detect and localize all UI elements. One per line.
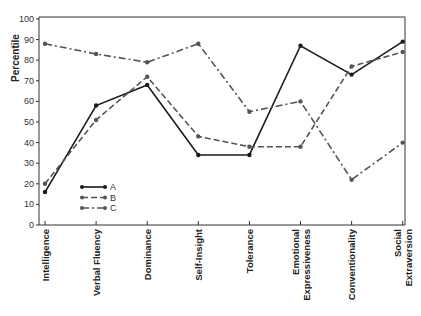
series-line — [45, 52, 403, 184]
plot-border — [39, 17, 405, 225]
x-tick-label: EmotionalExpressiveness — [290, 229, 312, 301]
x-tick-label: Tolerance — [244, 229, 255, 273]
x-tick-label: Verbal Fluency — [91, 228, 102, 296]
data-point — [196, 134, 200, 138]
data-point — [145, 74, 149, 78]
legend: ABC — [80, 182, 117, 213]
y-tick-label: 50 — [24, 117, 34, 127]
svg-text:Intelligence: Intelligence — [40, 229, 51, 281]
data-point — [196, 153, 200, 157]
data-point — [401, 39, 405, 43]
plot-frame — [39, 17, 405, 225]
legend-item-B: B — [80, 193, 116, 203]
data-point — [94, 52, 98, 56]
svg-text:Dominance: Dominance — [142, 229, 153, 280]
svg-text:Expressiveness: Expressiveness — [301, 229, 312, 301]
y-axis: 0102030405060708090100 — [19, 14, 39, 230]
data-point — [145, 83, 149, 87]
data-point — [43, 190, 47, 194]
series-line — [45, 44, 403, 180]
data-point — [349, 177, 353, 181]
svg-text:Extraversion: Extraversion — [403, 229, 414, 287]
y-axis-title: Percentile — [10, 34, 21, 82]
data-point — [247, 153, 251, 157]
y-tick-label: 100 — [19, 14, 34, 24]
data-point — [247, 110, 251, 114]
data-point — [298, 99, 302, 103]
legend-label: A — [110, 182, 116, 192]
legend-label: C — [110, 203, 117, 213]
y-tick-label: 40 — [24, 138, 34, 148]
svg-text:Social: Social — [392, 229, 403, 257]
legend-item-A: A — [80, 182, 116, 192]
data-point — [401, 140, 405, 144]
y-tick-label: 0 — [29, 220, 34, 230]
x-tick-label: Intelligence — [40, 229, 51, 281]
data-point — [401, 50, 405, 54]
series-B — [43, 50, 405, 186]
data-point — [349, 72, 353, 76]
data-point — [94, 103, 98, 107]
series-C — [43, 42, 405, 182]
data-point — [247, 145, 251, 149]
svg-text:Self-Insight: Self-Insight — [193, 228, 204, 281]
series-A — [43, 39, 405, 194]
y-tick-label: 80 — [24, 55, 34, 65]
data-point — [349, 64, 353, 68]
y-tick-label: 30 — [24, 158, 34, 168]
data-point — [43, 182, 47, 186]
x-tick-label: SocialExtraversion — [392, 229, 414, 287]
x-tick-label: Self-Insight — [193, 228, 204, 281]
legend-item-C: C — [80, 203, 117, 213]
x-axis: IntelligenceVerbal FluencyDominanceSelf-… — [40, 221, 414, 301]
y-tick-label: 90 — [24, 35, 34, 45]
series-layer — [43, 39, 405, 194]
y-tick-label: 20 — [24, 179, 34, 189]
y-tick-label: 70 — [24, 76, 34, 86]
x-tick-label: Dominance — [142, 229, 153, 280]
y-tick-label: 10 — [24, 199, 34, 209]
data-point — [43, 42, 47, 46]
x-tick-label: Conventionality — [346, 228, 357, 300]
y-tick-label: 60 — [24, 96, 34, 106]
svg-text:Tolerance: Tolerance — [244, 229, 255, 273]
line-chart: 0102030405060708090100 IntelligenceVerba… — [0, 0, 421, 316]
data-point — [298, 145, 302, 149]
data-point — [196, 42, 200, 46]
svg-text:Emotional: Emotional — [290, 229, 301, 275]
data-point — [94, 118, 98, 122]
legend-label: B — [110, 193, 116, 203]
data-point — [145, 60, 149, 64]
svg-text:Verbal Fluency: Verbal Fluency — [91, 228, 102, 296]
svg-text:Conventionality: Conventionality — [346, 228, 357, 300]
data-point — [298, 44, 302, 48]
